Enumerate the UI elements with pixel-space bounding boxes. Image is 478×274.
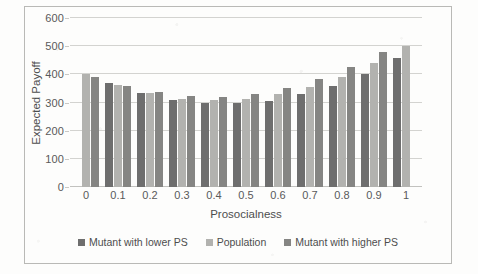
bar [283,88,291,187]
bar [361,74,369,187]
y-axis-tick-label: 100 [45,153,64,165]
bar [338,77,346,187]
y-axis-tick-label: 500 [45,40,64,52]
bar [201,103,209,187]
legend-label: Mutant with higher PS [295,236,398,248]
bar [123,86,131,187]
y-axis-tick-mark [65,159,69,160]
y-axis-tick-mark [65,103,69,104]
x-axis-tick-label: 0.6 [262,189,294,207]
bar [402,46,410,187]
bar-group [262,18,294,187]
x-axis-tick-label: 0.9 [358,189,390,207]
legend-item[interactable]: Population [206,236,267,248]
y-axis-tick-mark [65,18,69,19]
x-axis-tick-labels: 00.10.20.30.40.50.60.70.80.91 [70,189,422,207]
y-axis-title-holder: Expected Payoff [12,18,32,187]
bar [297,94,305,187]
bar-group [294,18,326,187]
bar [187,96,195,187]
bar-groups [70,18,422,187]
y-axis-tick-mark [65,131,69,132]
bar [306,87,314,187]
bar [210,100,218,187]
bar [114,85,122,187]
bar [155,92,163,187]
bar [178,99,186,187]
chart-legend: Mutant with lower PSPopulationMutant wit… [24,236,452,248]
bar-group [134,18,166,187]
bar [233,103,241,187]
bar-group [70,18,102,187]
bar [169,100,177,187]
bar [219,97,227,187]
bar [274,94,282,187]
legend-label: Mutant with lower PS [89,236,188,248]
bar [91,77,99,187]
x-axis-title: Prosocialness [70,208,422,220]
y-axis-tick-label: 400 [45,68,64,80]
bar-group [166,18,198,187]
bar [265,101,273,187]
y-axis-tick-label: 0 [58,181,64,193]
legend-swatch-icon [78,239,85,246]
bar [370,63,378,187]
chart-container: Expected Payoff 0100200300400500600 00.1… [0,0,478,274]
bar [82,74,90,187]
bar-group [198,18,230,187]
x-axis-tick-label: 1 [390,189,422,207]
x-axis-tick-label: 0.1 [102,189,134,207]
bar [242,99,250,187]
bar-group [390,18,422,187]
plot-area [70,18,422,187]
x-axis-tick-label: 0.7 [294,189,326,207]
bar-group [326,18,358,187]
y-axis-tick-mark [65,187,69,188]
bar [347,67,355,187]
bar-group [230,18,262,187]
y-axis-tick-mark [65,74,69,75]
legend-swatch-icon [284,239,291,246]
legend-item[interactable]: Mutant with lower PS [78,236,188,248]
y-axis-tick-label: 200 [45,125,64,137]
bar [251,94,259,187]
bar [393,58,401,187]
x-axis-tick-label: 0.5 [230,189,262,207]
bar [315,79,323,187]
bar-group [358,18,390,187]
x-axis-tick-label: 0.8 [326,189,358,207]
legend-label: Population [217,236,267,248]
y-axis-tick-labels: 0100200300400500600 [30,18,64,187]
x-axis-tick-label: 0.4 [198,189,230,207]
bar [146,93,154,187]
bar [379,52,387,187]
y-axis-tick-label: 600 [45,12,64,24]
legend-swatch-icon [206,239,213,246]
y-axis-tick-mark [65,46,69,47]
legend-item[interactable]: Mutant with higher PS [284,236,398,248]
x-axis-tick-label: 0.2 [134,189,166,207]
bar [137,93,145,187]
y-axis-tick-label: 300 [45,97,64,109]
bar [329,86,337,187]
bar-group [102,18,134,187]
x-axis-tick-label: 0.3 [166,189,198,207]
x-axis-tick-label: 0 [70,189,102,207]
bar [105,83,113,187]
